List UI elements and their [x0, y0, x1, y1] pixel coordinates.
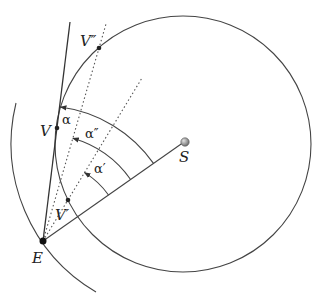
label-alpha-prime: α′: [94, 161, 106, 176]
label-v-prime: V′: [55, 206, 70, 224]
label-v-double-prime: V″: [80, 32, 97, 50]
point-v: [55, 126, 60, 131]
sun-icon: [181, 138, 189, 146]
elongation-diagram: V″ V V′ E S α α″ α′: [0, 0, 324, 304]
earth-orbit-arc: [11, 103, 96, 292]
label-s: S: [179, 148, 189, 166]
label-alpha: α: [62, 112, 71, 127]
point-e: [40, 238, 47, 245]
label-alpha-double-prime: α″: [85, 126, 99, 141]
label-e: E: [31, 249, 43, 267]
label-v: V: [40, 122, 53, 140]
point-v-double-prime: [97, 46, 102, 51]
point-v-prime: [66, 198, 71, 203]
